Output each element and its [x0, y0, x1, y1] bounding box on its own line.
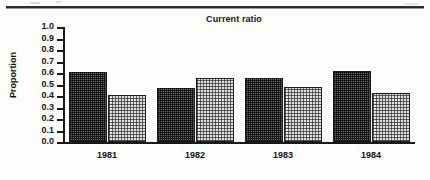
y-axis-tick-label: 0.2 — [30, 113, 54, 123]
chart-title: Current ratio — [0, 14, 430, 24]
page-horizontal-rule — [6, 6, 424, 8]
bar-1981-series-dark — [69, 72, 107, 142]
y-axis-label: Proportion — [8, 35, 18, 115]
y-axis-tick-label: 0.1 — [30, 125, 54, 135]
x-axis-line — [59, 142, 415, 144]
scan-speckle — [56, 1, 61, 3]
bar-group — [69, 27, 146, 142]
x-axis-label-1983: 1983 — [239, 150, 327, 160]
y-axis-tick-mark — [57, 119, 64, 121]
y-axis-tick-label: 0.3 — [30, 102, 54, 112]
y-axis-tick-label: 0.9 — [30, 33, 54, 43]
y-axis-tick-label: 0.5 — [30, 79, 54, 89]
bar-1983-series-light — [284, 87, 322, 142]
y-axis-tick-mark — [57, 39, 64, 41]
y-axis-tick-mark — [57, 27, 64, 29]
bar-1982-series-dark — [157, 88, 195, 142]
y-axis-tick-label: 0.6 — [30, 67, 54, 77]
x-axis-label-1981: 1981 — [63, 150, 151, 160]
y-axis-tick-label: 0.4 — [30, 90, 54, 100]
y-axis-tick-mark — [57, 73, 64, 75]
y-axis-tick-mark — [57, 131, 64, 133]
y-axis-tick-mark — [57, 108, 64, 110]
y-axis-tick-mark — [57, 62, 64, 64]
plot-area: 1.00.90.80.70.60.50.40.30.20.10.0 — [63, 27, 415, 144]
y-axis-tick-label: 1.0 — [30, 21, 54, 31]
y-axis-tick-mark — [57, 50, 64, 52]
bar-1984-series-light — [372, 93, 410, 142]
y-axis-tick-mark — [57, 85, 64, 87]
bar-1981-series-light — [108, 95, 146, 142]
bar-group — [333, 27, 410, 142]
y-axis-tick-label: 0.8 — [30, 44, 54, 54]
bar-group — [157, 27, 234, 142]
scan-speckle — [30, 2, 40, 4]
x-axis-label-1984: 1984 — [327, 150, 415, 160]
bar-chart: Current ratio Proportion 1.00.90.80.70.6… — [0, 12, 430, 180]
bar-1982-series-light — [196, 78, 234, 142]
bar-1983-series-dark — [245, 78, 283, 142]
y-axis-tick-mark — [57, 96, 64, 98]
scanned-page-background: Current ratio Proportion 1.00.90.80.70.6… — [0, 0, 430, 180]
scan-speckle — [404, 3, 418, 5]
bar-group — [245, 27, 322, 142]
x-axis-label-1982: 1982 — [151, 150, 239, 160]
y-axis-tick-label: 0.0 — [30, 136, 54, 146]
y-axis-tick-mark — [57, 142, 64, 144]
y-axis-tick-label: 0.7 — [30, 56, 54, 66]
bar-1984-series-dark — [333, 71, 371, 142]
